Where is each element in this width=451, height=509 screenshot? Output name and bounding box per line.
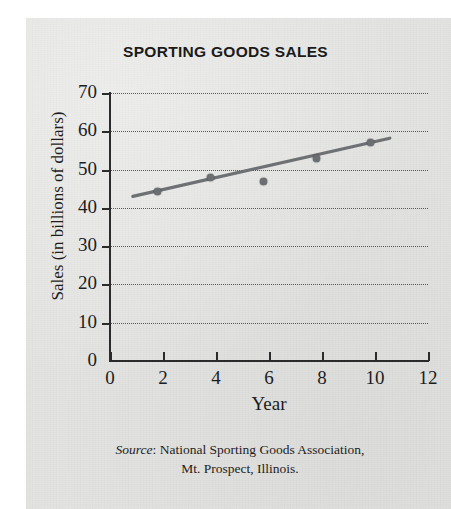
source-line-1: : National Sporting Goods Association, [153,442,365,457]
x-tick-label-6: 6 [249,367,289,389]
source-note: Source: National Sporting Goods Associat… [40,440,440,478]
y-tick-20 [102,284,111,286]
x-tick-label-0: 0 [90,367,130,389]
y-tick-10 [102,323,111,325]
x-tick-6 [269,352,271,361]
trend-line [110,93,428,361]
y-tick-60 [102,131,111,133]
y-tick-30 [102,246,111,248]
data-point-year-10 [367,139,374,146]
y-tick-40 [102,208,111,210]
x-tick-4 [216,352,218,361]
x-tick-label-12: 12 [408,367,448,389]
x-axis-title: Year [110,393,428,415]
x-tick-label-10: 10 [355,367,395,389]
source-line-2: Mt. Prospect, Illinois. [181,461,298,476]
plot-area [110,93,428,361]
x-tick-8 [322,352,324,361]
x-tick-2 [163,352,165,361]
y-tick-70 [102,93,111,95]
x-tick-0 [110,352,112,361]
source-label: Source [116,442,153,457]
x-tick-10 [375,352,377,361]
figure-container: SPORTING GOODS SALES 70 60 50 40 30 20 1… [0,0,451,509]
data-point-year-6 [260,178,267,185]
y-axis-title: Sales (in billions of dollars) [48,76,68,336]
x-tick-label-2: 2 [143,367,183,389]
x-tick-label-8: 8 [302,367,342,389]
data-point-year-8 [313,155,320,162]
data-point-year-4 [207,174,214,181]
data-point-year-2 [154,188,161,195]
y-tick-50 [102,170,111,172]
x-tick-12 [428,352,430,361]
x-tick-label-4: 4 [196,367,236,389]
page-title: SPORTING GOODS SALES [0,43,451,61]
